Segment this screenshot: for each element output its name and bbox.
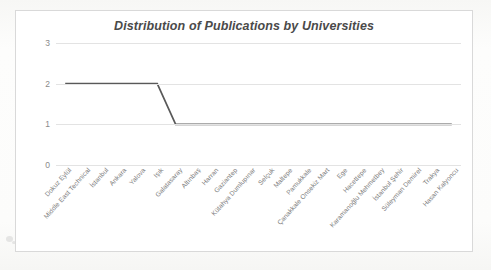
gridline-y-3 <box>56 43 461 44</box>
x-axis-tick-label: Işık <box>153 167 165 179</box>
gridline-y-0 <box>56 165 461 166</box>
gridline-y-2 <box>56 84 461 85</box>
x-axis-label-4: Yalova <box>128 167 146 186</box>
plot-area: 0123 <box>56 43 461 165</box>
x-axis-tick-label: Ege <box>336 167 349 180</box>
x-axis-tick-label: Ankara <box>109 167 128 187</box>
y-axis-tick-label: 3 <box>45 39 50 48</box>
chart-container: Distribution of Publications by Universi… <box>15 10 473 252</box>
y-axis-tick-label: 2 <box>45 79 50 88</box>
x-axis-label-3: Ankara <box>109 167 128 187</box>
gridline-y-1 <box>56 124 461 125</box>
x-axis-labels: Dokuz EylülMiddle East Technicalİstanbul… <box>56 167 461 252</box>
chart-title: Distribution of Publications by Universi… <box>16 19 472 33</box>
y-axis-tick-label: 0 <box>45 161 50 170</box>
y-axis-tick-label: 1 <box>45 120 50 129</box>
x-axis-tick-label: İstanbul <box>89 167 110 189</box>
x-axis-tick-label: Yalova <box>128 167 146 186</box>
x-axis-label-5: Işık <box>153 167 165 179</box>
line-series <box>56 43 461 165</box>
series-line <box>65 84 452 125</box>
x-axis-label-15: Ege <box>336 167 349 180</box>
x-axis-label-2: İstanbul <box>89 167 110 189</box>
page-background: Distribution of Publications by Universi… <box>0 0 491 270</box>
